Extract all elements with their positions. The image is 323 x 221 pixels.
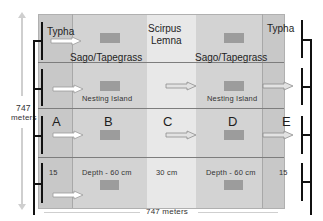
flow-arrow-icon-row2-e	[262, 81, 294, 91]
vertical-dimension-value: 747	[16, 104, 31, 113]
depth-label-d: Depth - 60 cm	[206, 169, 256, 177]
vegetation-right-band: Sago/Tapegrass	[195, 53, 267, 63]
island-marker-b-row3	[100, 130, 120, 140]
island-marker-d-row1	[224, 33, 244, 43]
island-marker-b-row1	[100, 33, 120, 43]
island-marker-d-row2	[224, 81, 244, 91]
flow-arrow-icon-row2-a	[52, 84, 84, 94]
island-marker-b-row2	[100, 81, 120, 91]
nesting-island-right-label: Nesting Island	[207, 95, 257, 103]
left-bracket-tick-1	[33, 40, 43, 42]
vertical-dimension-arrowhead-top	[18, 12, 26, 18]
zone-label-a: A	[52, 115, 61, 128]
horizontal-dimension-arrow-right	[198, 212, 278, 213]
right-bracket-spine	[310, 39, 312, 215]
depth-label-a: 15	[49, 169, 58, 177]
row-divider-3	[38, 157, 284, 158]
flow-arrow-icon-row4-a	[52, 190, 84, 200]
left-bracket-tick-3	[33, 135, 43, 137]
depth-label-e: 15	[279, 169, 288, 177]
vegetation-right-edge: Typha	[267, 24, 294, 34]
right-bracket-tick-3	[301, 134, 312, 136]
zone-label-e: E	[282, 115, 291, 128]
left-bracket-tick-4	[33, 183, 43, 185]
zone-label-c: C	[163, 115, 172, 128]
island-marker-d-row4	[224, 180, 243, 190]
vertical-dimension-arrowhead-bottom	[18, 204, 26, 210]
horizontal-dimension-arrow-left	[44, 212, 140, 213]
vegetation-center-line1: Scirpus	[148, 24, 181, 34]
zone-label-b: B	[104, 115, 113, 128]
left-bracket-spine	[33, 40, 35, 215]
nesting-island-left-label: Nesting Island	[82, 95, 132, 103]
flow-arrow-icon-row3-e	[262, 130, 294, 140]
right-bracket-tick-4	[301, 181, 312, 183]
vertical-dimension-arrow-top	[21, 14, 23, 96]
depth-label-b: Depth - 60 cm	[82, 169, 132, 177]
depth-label-c: 30 cm	[156, 169, 177, 177]
flow-arrow-icon-row1-a	[50, 36, 82, 46]
vertical-dimension-arrow-bottom	[21, 128, 23, 208]
vegetation-center-line2: Lemna	[151, 36, 182, 46]
right-bracket-tick-2	[301, 86, 312, 88]
flow-arrow-icon-row3-a	[52, 130, 84, 140]
zone-label-d: D	[228, 115, 237, 128]
right-bracket-tick-1	[301, 39, 312, 41]
zone-divider-de	[262, 14, 263, 208]
row-divider-2	[38, 108, 284, 109]
island-marker-b-row4	[100, 180, 119, 190]
vegetation-left-band: Sago/Tapegrass	[70, 53, 142, 63]
flow-arrow-icon-row2-c	[165, 81, 197, 91]
left-bracket-tick-2	[33, 88, 43, 90]
island-marker-d-row3	[224, 130, 244, 140]
horizontal-dimension-label: 747 meters	[146, 208, 188, 216]
flow-arrow-icon-row3-c	[165, 130, 197, 140]
